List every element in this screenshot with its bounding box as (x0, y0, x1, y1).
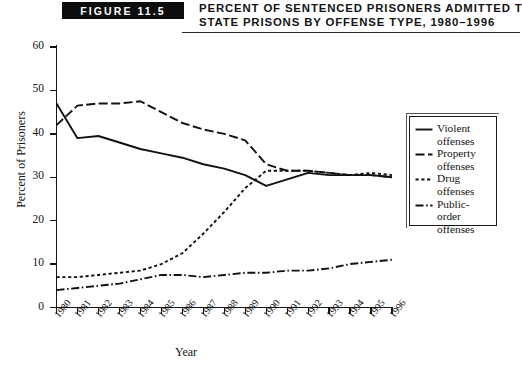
legend-line-sample-public-order-icon (415, 200, 433, 211)
legend-label-line-1: Violent (437, 122, 470, 134)
legend-label-property: Propertyoffenses (437, 147, 476, 172)
legend-label-line-1: Property (437, 147, 476, 159)
legend-label-public-order: Public-orderoffenses (437, 198, 492, 236)
legend-label-drug: Drugoffenses (437, 172, 474, 197)
legend-line-sample-violent-icon (415, 124, 433, 135)
legend-item-drug: Drugoffenses (415, 172, 492, 197)
legend-label-line-2: offenses (437, 185, 474, 198)
legend: ViolentoffensesPropertyoffensesDrugoffen… (409, 116, 497, 226)
legend-item-public-order: Public-orderoffenses (415, 198, 492, 236)
figure-container: FIGURE 11.5 Percent of Sentenced Prisone… (0, 0, 522, 367)
legend-line-sample-drug-icon (415, 174, 433, 185)
legend-label-line-1: Drug (437, 172, 460, 184)
legend-label-line-2: offenses (437, 160, 476, 173)
legend-label-violent: Violentoffenses (437, 122, 474, 147)
series-line-dashdot (57, 260, 393, 290)
legend-line-sample-property-icon (415, 149, 433, 160)
legend-label-line-2: offenses (437, 135, 474, 148)
legend-item-violent: Violentoffenses (415, 122, 492, 147)
legend-label-line-2: offenses (437, 223, 492, 236)
legend-label-line-1: Public-order (437, 198, 470, 223)
series-line-shortdash (57, 171, 393, 277)
legend-item-property: Propertyoffenses (415, 147, 492, 172)
